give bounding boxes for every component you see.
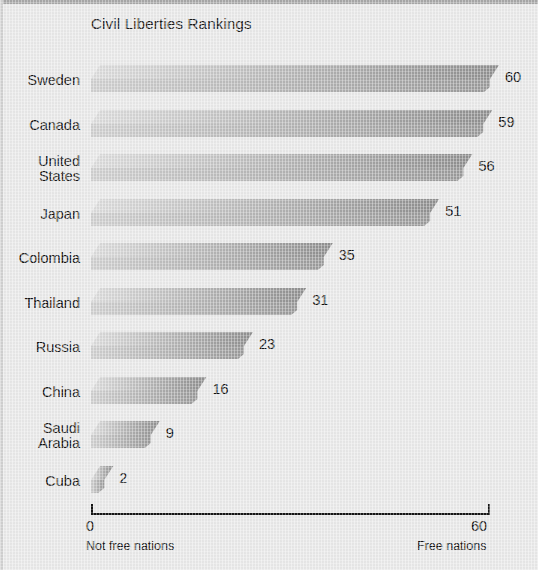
x-axis-tick-min xyxy=(91,504,93,515)
bar-value-label: 16 xyxy=(212,381,228,397)
bar-category-label: Colombia xyxy=(0,240,80,266)
bar-shape xyxy=(91,199,441,226)
bar-front-face xyxy=(91,213,430,226)
bar-top-face xyxy=(91,466,113,480)
bar-top-face xyxy=(91,65,499,79)
bar-row: Colombia35 xyxy=(0,240,538,280)
bar-shape xyxy=(91,243,335,270)
bar-shape xyxy=(91,377,208,404)
bar-row: Japan51 xyxy=(0,196,538,236)
bar-row: Saudi Arabia9 xyxy=(0,418,538,458)
bar-front-face xyxy=(91,346,244,359)
bar-shape xyxy=(91,288,308,315)
bar-value-label: 59 xyxy=(498,114,514,130)
chart-canvas: Civil Liberties Rankings Sweden60Canada5… xyxy=(0,0,538,570)
bar-category-label: Japan xyxy=(0,196,80,222)
bar-front-face xyxy=(91,79,490,92)
bar-row: Cuba2 xyxy=(0,463,538,503)
bar-front-face xyxy=(91,391,197,404)
bar-category-label: Russia xyxy=(0,329,80,355)
bar-top-face xyxy=(91,377,206,391)
bar-category-label: Canada xyxy=(0,107,80,133)
bar-category-label: United States xyxy=(0,151,80,184)
bar-shape xyxy=(91,154,474,181)
bar-row: United States56 xyxy=(0,151,538,191)
bar-front-face xyxy=(91,257,324,270)
bar-top-face xyxy=(91,110,492,124)
bar-front-face xyxy=(91,302,297,315)
bar-value-label: 35 xyxy=(339,247,355,263)
x-axis-line xyxy=(91,513,490,515)
bar-shape xyxy=(91,332,255,359)
bar-shape xyxy=(91,110,494,137)
x-axis-min-caption: Not free nations xyxy=(86,539,174,553)
bar-value-label: 51 xyxy=(445,203,461,219)
bar-top-face xyxy=(91,243,333,257)
bar-row: China16 xyxy=(0,374,538,414)
bar-category-label: Sweden xyxy=(0,62,80,88)
bar-top-face xyxy=(91,199,439,213)
bar-top-face xyxy=(91,288,306,302)
bar-value-label: 31 xyxy=(312,292,328,308)
bar-value-label: 2 xyxy=(119,470,127,486)
bar-row: Canada59 xyxy=(0,107,538,147)
x-axis-max-caption: Free nations xyxy=(417,539,486,553)
bar-top-face xyxy=(91,154,472,168)
bar-value-label: 60 xyxy=(505,69,521,85)
bar-front-face xyxy=(91,435,151,448)
bar-value-label: 56 xyxy=(478,158,494,174)
bar-row: Russia23 xyxy=(0,329,538,369)
x-axis-max-value-label: 60 xyxy=(471,518,487,534)
bar-front-face xyxy=(91,480,104,493)
x-axis-tick-max xyxy=(488,504,490,515)
bar-row: Thailand31 xyxy=(0,285,538,325)
bar-shape xyxy=(91,65,501,92)
bar-shape xyxy=(91,466,115,493)
plot-area: Sweden60Canada59United States56Japan51Co… xyxy=(0,0,538,570)
bar-top-face xyxy=(91,332,253,346)
bar-category-label: Saudi Arabia xyxy=(0,418,80,451)
bar-category-label: China xyxy=(0,374,80,400)
bar-value-label: 9 xyxy=(166,425,174,441)
bar-front-face xyxy=(91,168,463,181)
bar-shape xyxy=(91,421,162,448)
bar-row: Sweden60 xyxy=(0,62,538,102)
bar-category-label: Thailand xyxy=(0,285,80,311)
bar-top-face xyxy=(91,421,160,435)
bar-front-face xyxy=(91,124,483,137)
x-axis-min-value-label: 0 xyxy=(86,518,94,534)
bar-value-label: 23 xyxy=(259,336,275,352)
bar-category-label: Cuba xyxy=(0,463,80,489)
